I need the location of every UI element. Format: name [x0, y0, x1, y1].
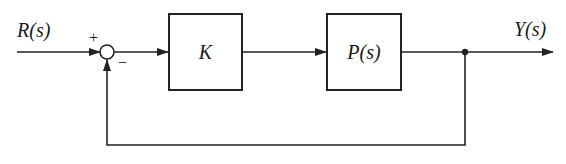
plus-sign: +	[89, 29, 98, 46]
block-diagram: R(s) + − K P(s) Y(s)	[0, 0, 566, 164]
input-signal-label: R(s)	[16, 19, 51, 42]
controller-block-label: K	[198, 41, 214, 63]
plant-block-label: P(s)	[346, 41, 381, 64]
summing-junction	[100, 45, 114, 59]
output-signal-label: Y(s)	[514, 18, 547, 41]
minus-sign: −	[118, 54, 127, 71]
feedback-path	[107, 52, 465, 145]
